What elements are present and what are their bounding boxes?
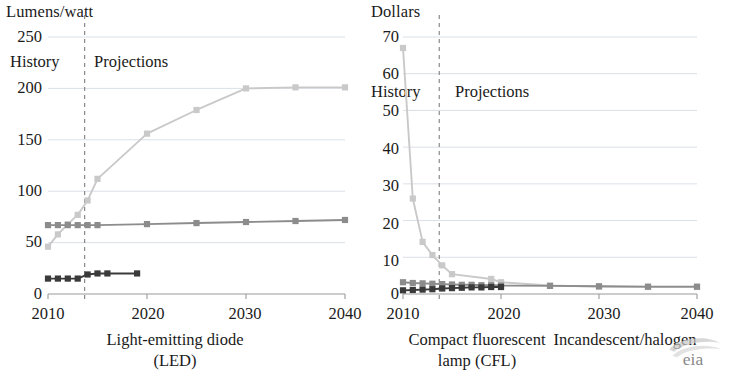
- x-tick-2010: 2010: [373, 306, 433, 323]
- x-tick-2030: 2030: [215, 306, 275, 323]
- x-tick-2010: 2010: [18, 306, 78, 323]
- x-tick-2020: 2020: [118, 306, 178, 323]
- eia-lighting-efficacy-and-price-figure: Lumens/watt 250 200 150 100 50 0 History…: [0, 0, 729, 376]
- panel-lumens-per-watt: Lumens/watt 250 200 150 100 50 0 History…: [0, 0, 364, 376]
- panel-dollars: Dollars 70 60 50 40 30 20 10 0 History P…: [365, 0, 729, 376]
- x-tick-2020: 2020: [474, 306, 534, 323]
- x-tick-2030: 2030: [574, 306, 634, 323]
- x-tick-2040: 2040: [667, 306, 727, 323]
- panel-caption-line2: (LED): [40, 352, 310, 370]
- eia-logo: eia: [661, 332, 725, 370]
- panel-caption-line2: lamp (CFL): [357, 352, 597, 370]
- svg-text:eia: eia: [683, 349, 704, 369]
- panel-caption-line1: Light-emitting diode: [40, 331, 310, 349]
